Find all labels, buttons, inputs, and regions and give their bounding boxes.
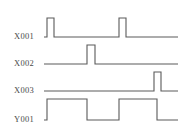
signal-row-x002: X002 (14, 45, 178, 68)
signal-label-x002: X002 (14, 58, 34, 68)
signal-row-y001: Y001 (14, 99, 178, 124)
signal-label-y001: Y001 (14, 114, 34, 124)
signal-label-x003: X003 (14, 85, 34, 95)
signal-row-x001: X001 (14, 18, 178, 41)
waveform-x002 (44, 45, 178, 64)
waveform-x001 (44, 18, 178, 37)
waveform-y001 (44, 99, 178, 120)
timing-diagram-canvas: X001 X002 X003 Y001 (0, 0, 189, 137)
waveform-x003 (44, 72, 178, 91)
signal-row-x003: X003 (14, 72, 178, 95)
signal-label-x001: X001 (14, 31, 34, 41)
timing-diagram-screen: X001 X002 X003 Y001 (0, 0, 189, 137)
